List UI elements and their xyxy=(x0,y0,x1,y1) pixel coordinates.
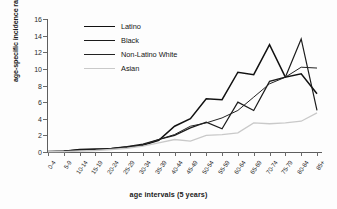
x-tick-label: 35-39 xyxy=(153,159,167,175)
y-tick-label: 4 xyxy=(38,115,42,122)
y-tick-label: 10 xyxy=(34,65,42,72)
legend-label: Latino xyxy=(121,22,141,31)
x-tick-label: 30-34 xyxy=(137,159,151,175)
y-tick-label: 0 xyxy=(38,149,42,156)
x-tick-label: 50-54 xyxy=(201,159,215,175)
x-tick-label: 15-19 xyxy=(90,159,104,175)
x-tick-label: 80-84 xyxy=(296,159,310,175)
y-tick-label: 2 xyxy=(38,132,42,139)
legend-label: Black xyxy=(121,36,139,45)
legend-swatch-line xyxy=(84,54,115,55)
x-tick-label: 5-9 xyxy=(62,159,73,170)
incidence-rate-line-chart: age-specific incidence rate 024681012141… xyxy=(0,0,337,209)
legend-item-non-latino-white: Non-Latino White xyxy=(84,47,177,61)
x-tick-label: 40-44 xyxy=(169,159,183,175)
y-tick-label: 6 xyxy=(38,99,42,106)
legend-swatch-line xyxy=(84,26,115,27)
y-axis-title: age-specific incidence rate xyxy=(12,0,20,108)
y-tick-label: 14 xyxy=(34,32,42,39)
y-tick-label: 12 xyxy=(34,49,42,56)
y-tick-label: 16 xyxy=(34,16,42,23)
x-tick-label: 20-24 xyxy=(106,159,120,175)
legend-item-black: Black xyxy=(84,33,177,47)
x-tick-label: 10-14 xyxy=(74,159,88,175)
x-axis-title: age intervals (5 years) xyxy=(0,190,337,199)
y-tick-label: 8 xyxy=(38,82,42,89)
x-tick-label: 85+ xyxy=(314,159,325,171)
x-tick-label: 75-79 xyxy=(280,159,294,175)
legend-label: Non-Latino White xyxy=(121,50,177,59)
legend-item-asian: Asian xyxy=(84,62,177,76)
x-tick-label: 60-64 xyxy=(232,159,246,175)
legend-item-latino: Latino xyxy=(84,19,177,33)
chart-legend: LatinoBlackNon-Latino WhiteAsian xyxy=(84,19,177,76)
x-tick-label: 55-59 xyxy=(216,159,230,175)
x-tick-label: 65-69 xyxy=(248,159,262,175)
legend-swatch-line xyxy=(84,68,115,69)
x-tick-label: 45-49 xyxy=(185,159,199,175)
series-line-asian xyxy=(48,113,317,152)
x-tick-label: 25-29 xyxy=(121,159,135,175)
legend-swatch-line xyxy=(84,40,115,41)
x-tick-label: 0-4 xyxy=(46,159,57,170)
legend-label: Asian xyxy=(121,64,139,73)
x-tick-label: 70-74 xyxy=(264,159,278,175)
